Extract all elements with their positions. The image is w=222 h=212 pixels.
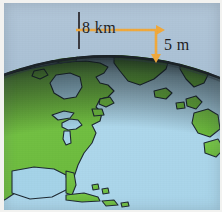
horizontal-distance-arrow-head: [156, 25, 165, 35]
measurement-arrows: [64, 21, 174, 67]
vertical-drop-arrow-head: [151, 54, 161, 63]
diagram-scene: 8 km 5 m: [4, 3, 220, 210]
land-arctic-island-a: [20, 51, 42, 63]
earth-curvature-figure: 8 km 5 m: [0, 0, 222, 212]
drop-label: 5 m: [164, 36, 190, 54]
globe-body: [4, 43, 220, 210]
distance-label: 8 km: [82, 19, 116, 37]
globe-limb-shading: [4, 55, 220, 210]
